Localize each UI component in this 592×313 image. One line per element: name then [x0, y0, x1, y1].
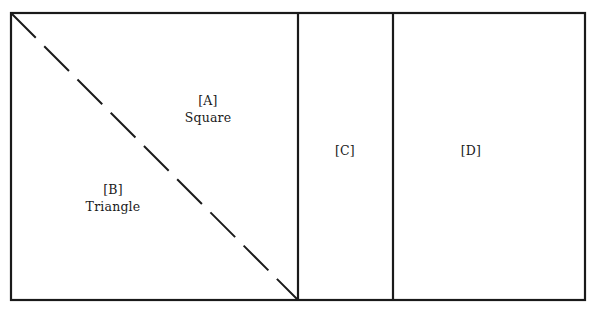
- region-label-b: [B] Triangle: [68, 182, 158, 215]
- diagram-svg: [0, 0, 592, 313]
- region-b-shape: Triangle: [68, 199, 158, 216]
- region-a-shape: Square: [164, 110, 252, 127]
- region-d-tag: [D]: [441, 143, 501, 160]
- region-a-tag: [A]: [164, 93, 252, 110]
- region-label-a: [A] Square: [164, 93, 252, 126]
- region-label-c: [C]: [315, 143, 375, 160]
- figure-canvas: [A] Square [B] Triangle [C] [D]: [0, 0, 592, 313]
- diagonal-split-line: [11, 13, 298, 300]
- region-label-d: [D]: [441, 143, 501, 160]
- region-c-tag: [C]: [315, 143, 375, 160]
- region-b-tag: [B]: [68, 182, 158, 199]
